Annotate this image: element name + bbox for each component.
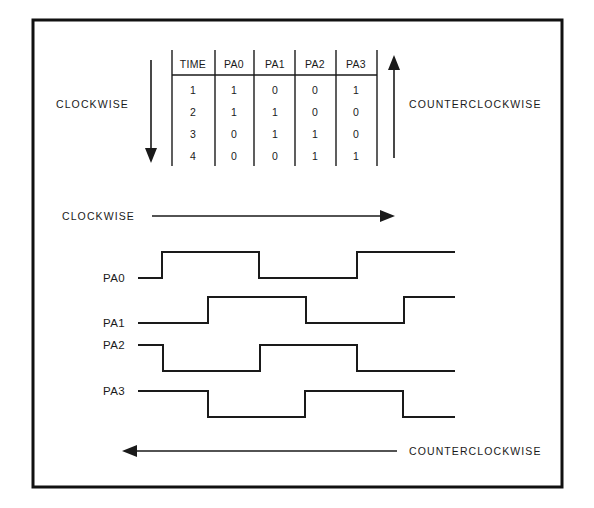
- table-cell: 1: [312, 128, 318, 140]
- arrow-right-icon: [380, 210, 395, 222]
- table-cell: 1: [231, 106, 237, 118]
- waveform-trace-pa1: [138, 297, 455, 323]
- table-cell: 0: [272, 150, 278, 162]
- phase-timing-figure: TIME PA0 PA1 PA2 PA3 1 1 0 0 1 2 1 1 0 0: [0, 0, 594, 508]
- table-header-pa0: PA0: [224, 58, 244, 70]
- table-cell: 0: [353, 106, 359, 118]
- table-cell: 1: [353, 84, 359, 96]
- table-counterclockwise-label: COUNTERCLOCKWISE: [409, 98, 542, 110]
- table-cell: 0: [272, 84, 278, 96]
- table-header-pa1: PA1: [265, 58, 285, 70]
- wave-counterclockwise-group: COUNTERCLOCKWISE: [122, 445, 542, 457]
- table-cell: 1: [312, 150, 318, 162]
- table-clockwise-group: CLOCKWISE: [56, 60, 157, 163]
- waveform-label-pa2: PA2: [103, 339, 125, 351]
- waveform-label-pa0: PA0: [103, 272, 125, 284]
- arrow-left-icon: [122, 445, 137, 457]
- waveform-pa3: PA3: [103, 385, 455, 417]
- waveform-trace-pa3: [138, 391, 455, 417]
- table-cell: 0: [353, 128, 359, 140]
- waveform-pa0: PA0: [103, 252, 455, 284]
- table-header-pa2: PA2: [305, 58, 325, 70]
- table-cell: 0: [312, 106, 318, 118]
- truth-table: TIME PA0 PA1 PA2 PA3 1 1 0 0 1 2 1 1 0 0: [172, 50, 377, 166]
- table-cell: 0: [312, 84, 318, 96]
- waveform-pa2: PA2: [103, 339, 455, 371]
- waveform-trace-pa2: [138, 345, 455, 371]
- table-cell: 1: [272, 106, 278, 118]
- waveform-pa1: PA1: [103, 297, 455, 329]
- table-cell: 0: [231, 128, 237, 140]
- table-header-pa3: PA3: [346, 58, 366, 70]
- table-counterclockwise-group: COUNTERCLOCKWISE: [388, 55, 542, 158]
- table-cell: 1: [190, 84, 196, 96]
- figure-canvas: TIME PA0 PA1 PA2 PA3 1 1 0 0 1 2 1 1 0 0: [0, 0, 594, 508]
- arrow-up-icon: [388, 55, 400, 70]
- table-cell: 1: [353, 150, 359, 162]
- waveform-label-pa1: PA1: [103, 317, 125, 329]
- wave-clockwise-group: CLOCKWISE: [62, 210, 395, 222]
- table-cell: 1: [272, 128, 278, 140]
- wave-counterclockwise-label: COUNTERCLOCKWISE: [409, 445, 542, 457]
- wave-clockwise-label: CLOCKWISE: [62, 210, 135, 222]
- table-cell: 2: [190, 106, 196, 118]
- waveform-label-pa3: PA3: [103, 385, 125, 397]
- waveform-trace-pa0: [138, 252, 455, 278]
- table-header-time: TIME: [180, 58, 206, 70]
- table-cell: 4: [190, 150, 196, 162]
- table-cell: 0: [231, 150, 237, 162]
- table-cell: 3: [190, 128, 196, 140]
- arrow-down-icon: [145, 148, 157, 163]
- table-clockwise-label: CLOCKWISE: [56, 98, 129, 110]
- table-cell: 1: [231, 84, 237, 96]
